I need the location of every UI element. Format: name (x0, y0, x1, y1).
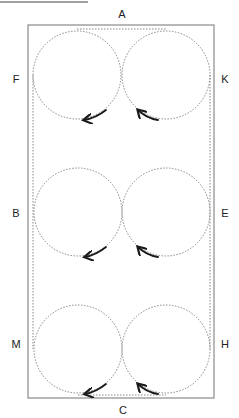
circle-top-right (122, 31, 210, 119)
label-F: F (13, 74, 20, 85)
dotted-circles (33, 31, 210, 393)
field-boundary (28, 25, 214, 398)
middle-left-arrow-icon (85, 247, 106, 257)
circle-middle-right (122, 168, 210, 256)
label-M: M (11, 339, 20, 350)
circle-top-left (33, 31, 121, 119)
label-C: C (119, 405, 127, 416)
arena-diagram (0, 0, 239, 418)
label-K: K (221, 74, 228, 85)
label-B: B (12, 208, 19, 219)
label-A: A (118, 9, 125, 20)
rotation-arrows (84, 110, 158, 394)
circle-bottom-right (122, 305, 210, 393)
circle-middle-left (34, 168, 122, 256)
circle-bottom-left (34, 305, 122, 393)
bottom-left-arrow-icon (85, 384, 106, 394)
label-H: H (221, 339, 229, 350)
label-E: E (221, 208, 228, 219)
top-left-arrow-icon (84, 110, 106, 120)
